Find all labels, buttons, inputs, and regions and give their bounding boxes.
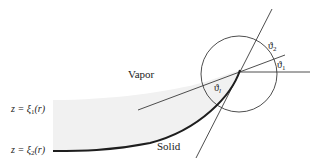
- vapor-label: Vapor: [128, 68, 155, 80]
- theta-1-label: ϑ1: [277, 59, 286, 72]
- upper-surface-label: z = ξ1(r): [10, 103, 46, 116]
- contact-angle-diagram: Vapor Solid z = ξ1(r) z = ξ2(r) ϑ2 ϑ1 ϑl: [0, 0, 325, 168]
- solid-label: Solid: [157, 140, 181, 152]
- lower-surface-label: z = ξ2(r): [10, 144, 46, 157]
